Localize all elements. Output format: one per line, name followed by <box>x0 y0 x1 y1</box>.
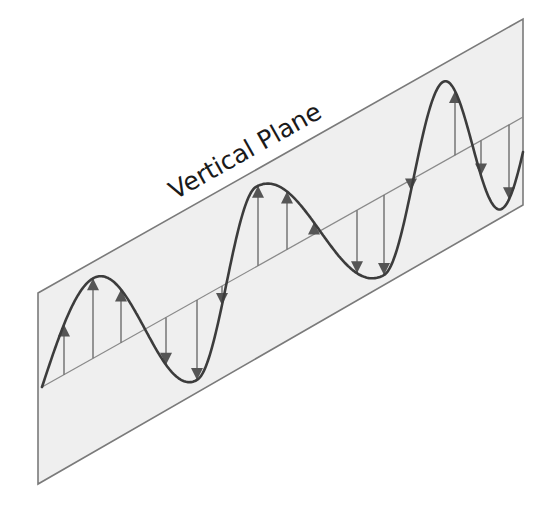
vertical-plane-diagram: Vertical Plane <box>0 0 554 516</box>
vertical-plane <box>38 19 523 484</box>
